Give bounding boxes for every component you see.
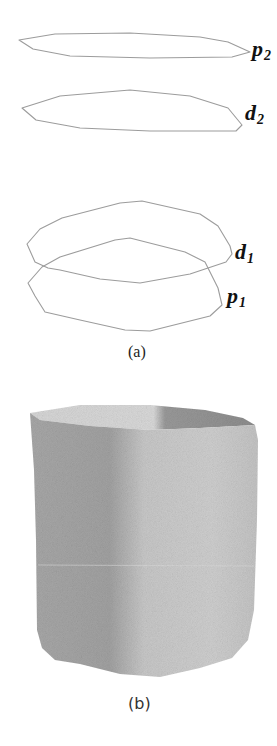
figure: p2 d2 d1 p1 (a)	[0, 0, 277, 746]
caption-b: (b)	[128, 696, 151, 712]
panel-b-surface	[0, 0, 277, 746]
surface-body	[30, 413, 258, 677]
